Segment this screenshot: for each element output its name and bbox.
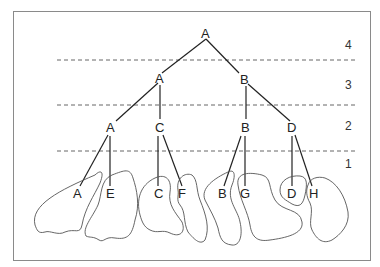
region-b	[204, 171, 241, 245]
level-label-2: 2	[345, 119, 352, 133]
node-l3-right: B	[240, 72, 249, 87]
node-l3-left: A	[155, 71, 164, 86]
node-l2-c: C	[155, 120, 164, 135]
region-e	[85, 171, 138, 241]
node-l2-b: B	[241, 120, 250, 135]
node-l2-a: A	[106, 120, 115, 135]
leaf-f: F	[178, 186, 186, 201]
tree-diagram: 4 3 2 1 A A B A C B D A	[0, 0, 380, 267]
level-label-3: 3	[345, 78, 352, 92]
leaf-g: G	[240, 186, 250, 201]
leaf-b: B	[218, 186, 227, 201]
leaf-c: C	[154, 186, 163, 201]
level-label-1: 1	[345, 157, 352, 171]
level-dividers	[57, 60, 357, 151]
leaf-e: E	[106, 186, 115, 201]
level-label-4: 4	[345, 38, 352, 52]
tree-edges	[80, 39, 312, 186]
node-root: A	[201, 26, 210, 41]
leaf-h: H	[309, 186, 318, 201]
node-l2-d: D	[287, 120, 296, 135]
leaf-a: A	[73, 186, 82, 201]
region-a	[34, 172, 102, 234]
leaf-d: D	[287, 186, 296, 201]
